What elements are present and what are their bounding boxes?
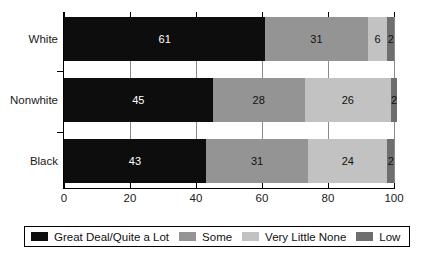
category-label-nonwhite: Nonwhite <box>2 94 58 106</box>
legend-swatch-icon <box>179 232 196 241</box>
legend-item-label: Some <box>202 231 232 243</box>
legend-item: Great Deal/Quite a Lot <box>31 231 169 243</box>
bar-value-label: 2 <box>388 34 394 45</box>
legend-item-label: Great Deal/Quite a Lot <box>54 231 169 243</box>
bar-segment: 26 <box>305 78 391 122</box>
legend-swatch-icon <box>242 232 259 241</box>
bar-segment: 45 <box>64 78 213 122</box>
x-tick-mark-bottom <box>262 183 263 189</box>
bar-value-label: 61 <box>159 34 171 45</box>
stacked-bar-chart: 61316245282624331242 White Nonwhite Blac… <box>0 0 432 254</box>
bar-value-label: 45 <box>132 95 144 106</box>
chart-legend: Great Deal/Quite a Lot Some Very Little … <box>24 226 410 247</box>
bar-segment: 43 <box>64 139 206 183</box>
bar-row: 613162 <box>64 17 394 61</box>
x-tick-mark-bottom <box>130 183 131 189</box>
bar-value-label: 31 <box>310 34 322 45</box>
bar-segment: 24 <box>308 139 387 183</box>
x-tick-label: 60 <box>256 192 269 204</box>
bar-segment: 2 <box>387 139 394 183</box>
legend-item-label: Very Little None <box>265 231 346 243</box>
category-label-black: Black <box>2 155 58 167</box>
bar-value-label: 2 <box>388 156 394 167</box>
legend-item-label: Low <box>379 231 400 243</box>
legend-item: Low <box>356 231 400 243</box>
x-tick-label: 80 <box>322 192 335 204</box>
category-label-white: White <box>2 33 58 45</box>
bar-segment: 31 <box>206 139 308 183</box>
legend-item: Very Little None <box>242 231 346 243</box>
bar-value-label: 28 <box>253 95 265 106</box>
bar-segment: 6 <box>368 17 388 61</box>
bar-value-label: 31 <box>251 156 263 167</box>
x-tick-mark-bottom <box>394 183 395 189</box>
x-tick-label: 20 <box>124 192 137 204</box>
x-axis-line <box>63 188 395 189</box>
bar-value-label: 43 <box>129 156 141 167</box>
x-tick-mark-bottom <box>196 183 197 189</box>
x-tick-mark-bottom <box>328 183 329 189</box>
x-tick-mark-bottom <box>64 183 65 189</box>
x-tick-label: 100 <box>384 192 403 204</box>
plot-area: 61316245282624331242 <box>64 17 394 183</box>
bar-segment: 28 <box>213 78 305 122</box>
bar-segment: 2 <box>387 17 394 61</box>
bar-value-label: 26 <box>342 95 354 106</box>
x-tick-label: 40 <box>190 192 203 204</box>
x-tick-label: 0 <box>61 192 67 204</box>
bar-segment: 31 <box>265 17 367 61</box>
bar-segment: 61 <box>64 17 265 61</box>
legend-swatch-icon <box>31 232 48 241</box>
legend-item: Some <box>179 231 232 243</box>
bar-value-label: 2 <box>391 95 397 106</box>
bar-value-label: 24 <box>342 156 354 167</box>
bar-segment: 2 <box>391 78 398 122</box>
legend-swatch-icon <box>356 232 373 241</box>
bar-row: 4528262 <box>64 78 394 122</box>
bar-value-label: 6 <box>374 34 380 45</box>
bar-row: 4331242 <box>64 139 394 183</box>
category-axis-labels: White Nonwhite Black <box>0 0 58 254</box>
